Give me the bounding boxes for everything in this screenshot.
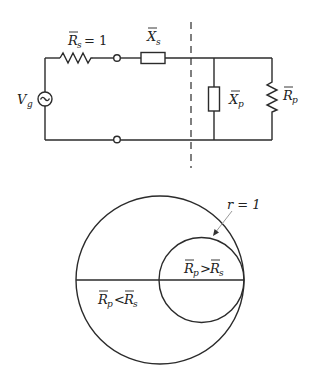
r-equals-1-pointer: r = 1 [213,197,261,236]
smith-chart: r = 1 R p > R s R p < R s [76,196,261,364]
svg-text:s: s [219,268,224,278]
series-resistor-icon [60,53,93,63]
terminal-bottom-icon [114,136,121,143]
diagram-canvas: V g R s = 1 X s X p R p [0,0,312,386]
svg-text:p: p [292,95,298,105]
shunt-reactance-label: X p [228,91,244,109]
series-resistor-label: R s = 1 [67,32,107,50]
series-reactance-label: X s [146,28,161,47]
svg-text:r = 1: r = 1 [227,197,261,212]
ac-source-icon [38,92,52,106]
shunt-reactance-icon [209,87,220,111]
shunt-resistor-label: R p [282,87,298,105]
svg-text:g: g [27,99,33,109]
terminal-top-icon [114,55,121,62]
svg-text:s: s [77,40,82,50]
lower-region-label: R p < R s [97,291,138,309]
svg-text:s: s [133,299,138,309]
svg-text:s: s [156,37,161,47]
circuit-schematic: V g R s = 1 X s X p R p [17,22,298,168]
svg-text:= 1: = 1 [84,33,107,48]
upper-region-label: R p > R s [183,260,224,278]
svg-text:p: p [107,299,113,309]
svg-text:p: p [193,268,199,278]
svg-text:p: p [238,99,244,109]
source-label: V g [17,92,33,109]
series-reactance-icon [141,53,165,64]
shunt-resistor-icon [267,58,277,140]
